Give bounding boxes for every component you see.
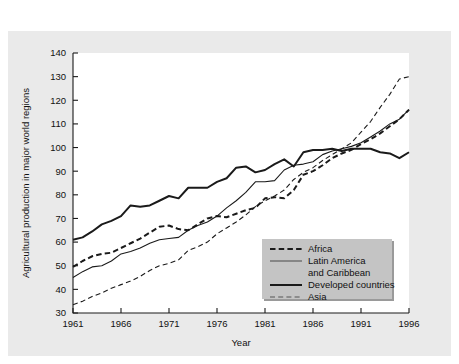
- y-tick-label: 60: [55, 236, 66, 247]
- legend-label: Developed countries: [308, 279, 395, 290]
- x-tick-label: 1971: [158, 318, 179, 329]
- y-tick-label: 80: [55, 189, 66, 200]
- x-tick-label: 1961: [62, 318, 83, 329]
- x-tick-label: 1981: [254, 318, 275, 329]
- y-tick-label: 110: [51, 118, 66, 129]
- y-tick-label: 90: [55, 166, 66, 177]
- x-tick-label: 1991: [350, 318, 371, 329]
- y-axis-title: Agricultural production in major world r…: [20, 88, 31, 278]
- x-tick-label: 1966: [110, 318, 131, 329]
- legend-label: Asia: [308, 291, 327, 302]
- y-tick-label: 130: [50, 71, 66, 82]
- y-tick-label: 30: [55, 307, 66, 318]
- chart-plot: 30405060708090100110120130140 1961196619…: [8, 31, 451, 356]
- x-axis-title: Year: [231, 337, 250, 348]
- y-tick-label: 70: [55, 213, 66, 224]
- chart-legend: AfricaLatin Americaand CaribbeanDevelope…: [262, 239, 395, 302]
- y-tick-label: 120: [50, 95, 66, 106]
- legend-label: and Caribbean: [308, 267, 370, 278]
- y-tick-label: 40: [55, 284, 66, 295]
- y-tick-label: 100: [50, 142, 66, 153]
- x-tick-label: 1996: [398, 318, 419, 329]
- x-tick-label: 1986: [302, 318, 323, 329]
- legend-label: Latin America: [308, 255, 366, 266]
- y-tick-label: 140: [50, 47, 66, 58]
- x-tick-label: 1976: [206, 318, 227, 329]
- chart-figure: 30405060708090100110120130140 1961196619…: [8, 31, 451, 356]
- legend-label: Africa: [308, 243, 333, 254]
- y-tick-label: 50: [55, 260, 66, 271]
